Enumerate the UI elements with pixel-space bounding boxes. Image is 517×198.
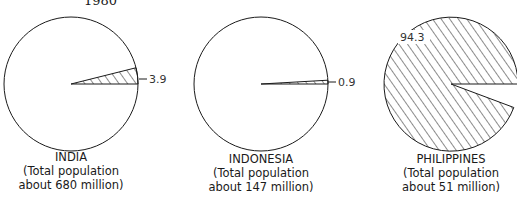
caption-philippines: PHILIPPINES (Total population about 51 m… [376, 152, 517, 194]
india-value-label: 3.9 [149, 73, 167, 86]
philippines-value-label: 94.3 [400, 31, 425, 44]
pie-indonesia: 0.9 [194, 17, 356, 151]
caption-line: about 51 million) [376, 180, 517, 194]
indonesia-value-label: 0.9 [338, 76, 356, 89]
caption-indonesia: INDONESIA (Total population about 147 mi… [186, 152, 336, 194]
caption-india: INDIA (Total population about 680 millio… [0, 150, 146, 192]
caption-line: (Total population [186, 166, 336, 180]
pie-india: 3.9 [4, 17, 167, 151]
caption-line: about 680 million) [0, 178, 146, 192]
country-name: INDONESIA [186, 152, 336, 166]
caption-line: (Total population [0, 164, 146, 178]
pie-philippines: 94.3 [384, 17, 517, 151]
caption-line: (Total population [376, 166, 517, 180]
caption-line: about 147 million) [186, 180, 336, 194]
country-name: PHILIPPINES [376, 152, 517, 166]
country-name: INDIA [0, 150, 146, 164]
